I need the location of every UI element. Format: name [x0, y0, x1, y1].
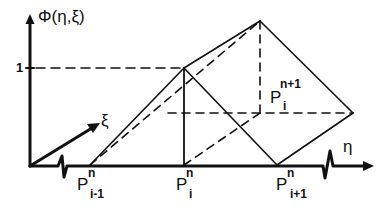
hidden-center-base — [184, 113, 260, 165]
node-subscript: i — [283, 100, 286, 112]
hidden-left-ridge — [90, 21, 260, 165]
phi-axis-arrowhead-icon — [26, 14, 35, 24]
node-base: P — [276, 176, 287, 193]
node-subscript: i — [189, 188, 192, 200]
xi-axis-label: ξ — [101, 112, 109, 129]
node-subscript: i-1 — [90, 188, 104, 200]
basis-function-diagram — [0, 0, 379, 212]
ridge-edge — [184, 21, 260, 68]
eta-axis-arrowhead-icon — [363, 161, 374, 171]
node-superscript: n — [287, 167, 294, 179]
eta-axis-label: η — [343, 138, 352, 155]
node-superscript: n — [88, 167, 95, 179]
node-superscript: n — [186, 167, 193, 179]
front-right-edge — [184, 68, 277, 165]
phi-axis-label: Φ(η,ξ) — [38, 8, 85, 25]
node-superscript: n+1 — [280, 78, 301, 90]
node-base: P — [77, 176, 88, 193]
node-base: P — [270, 89, 281, 106]
level-one-label: 1 — [16, 61, 23, 74]
node-subscript: i+1 — [290, 188, 307, 200]
right-base-edge — [277, 113, 353, 165]
